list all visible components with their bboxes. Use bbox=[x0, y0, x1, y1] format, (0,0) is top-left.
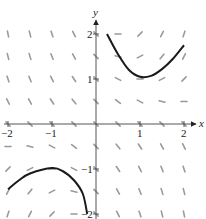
slope-segment bbox=[183, 166, 185, 172]
slope-segment bbox=[183, 31, 185, 37]
y-tick-label: 2 bbox=[87, 28, 93, 40]
slope-segment bbox=[161, 189, 163, 195]
upper-solution-curve bbox=[107, 34, 184, 77]
slope-segment bbox=[137, 55, 142, 58]
slope-segment bbox=[183, 144, 186, 149]
slope-segment bbox=[183, 189, 184, 195]
slope-segment bbox=[27, 168, 32, 171]
slope-segment bbox=[161, 144, 164, 149]
slope-segment bbox=[29, 54, 31, 60]
slope-segment bbox=[7, 31, 8, 37]
x-tick-label: −2 bbox=[1, 127, 13, 139]
slope-segment bbox=[139, 189, 141, 195]
slope-segment bbox=[51, 76, 54, 81]
slope-segment bbox=[72, 76, 75, 81]
slope-segment bbox=[138, 144, 141, 149]
slope-segment bbox=[29, 76, 31, 82]
slope-segment bbox=[7, 76, 9, 82]
slope-segment bbox=[29, 211, 32, 216]
slope-segment bbox=[116, 100, 121, 104]
slope-segment bbox=[7, 54, 8, 60]
slope-segment bbox=[159, 101, 165, 102]
slope-segment bbox=[161, 211, 162, 217]
x-tick-label: −1 bbox=[45, 127, 57, 139]
slope-segment bbox=[49, 145, 54, 148]
slope-segment bbox=[139, 211, 141, 217]
y-tick-label: −1 bbox=[81, 163, 93, 175]
x-tick-label: 2 bbox=[181, 127, 187, 139]
slope-segment bbox=[7, 211, 9, 217]
slope-segment bbox=[138, 32, 142, 36]
slope-segment bbox=[115, 78, 120, 81]
slope-segment bbox=[71, 168, 76, 171]
slope-segment bbox=[29, 99, 32, 104]
slope-segment bbox=[116, 144, 120, 149]
slope-field-diagram: −2−112−2−112 x y bbox=[0, 0, 206, 219]
slope-segment bbox=[27, 146, 33, 147]
slope-segment bbox=[160, 54, 164, 59]
slope-segment bbox=[50, 99, 53, 104]
slope-segment bbox=[72, 99, 76, 104]
slope-segment bbox=[7, 99, 10, 104]
slope-segment bbox=[51, 54, 53, 60]
slope-segment bbox=[117, 189, 120, 194]
slope-segment bbox=[72, 145, 77, 149]
slope-segment bbox=[71, 191, 77, 192]
slope-segment bbox=[51, 31, 53, 37]
slope-segment bbox=[161, 31, 164, 36]
slope-segment bbox=[182, 77, 186, 81]
slope-segment bbox=[49, 190, 54, 193]
slope-segment bbox=[116, 166, 119, 171]
x-axis-label: x bbox=[198, 117, 204, 129]
slope-segment bbox=[73, 31, 76, 36]
y-tick-label: 1 bbox=[87, 73, 93, 85]
slope-segment bbox=[161, 166, 163, 172]
slope-segment bbox=[73, 54, 76, 59]
y-axis-label: y bbox=[92, 6, 98, 18]
slope-segment bbox=[183, 211, 184, 217]
slope-segment bbox=[159, 78, 164, 81]
slope-segment bbox=[117, 211, 120, 216]
slope-segment bbox=[50, 212, 54, 216]
x-tick-label: 1 bbox=[137, 127, 143, 139]
slope-segment bbox=[183, 54, 186, 59]
slope-segment bbox=[137, 100, 142, 103]
slope-segment bbox=[29, 31, 30, 37]
slope-segment bbox=[28, 189, 32, 194]
slope-segment bbox=[6, 167, 10, 171]
slope-segment bbox=[139, 166, 142, 171]
